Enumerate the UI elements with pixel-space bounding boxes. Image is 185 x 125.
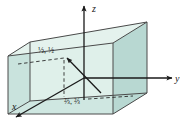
axis-label-z: z xyxy=(91,3,96,14)
diagram-canvas: z y x ½, ½ ⅔, ⅔ xyxy=(0,0,185,125)
figure-3d-coordinate-box: z y x ½, ½ ⅔, ⅔ xyxy=(0,0,185,125)
axis-label-y: y xyxy=(174,73,180,84)
point-label-upper: ½, ½ xyxy=(38,46,54,55)
point-label-base: ⅔, ⅔ xyxy=(64,97,80,106)
axis-label-x: x xyxy=(11,101,17,112)
